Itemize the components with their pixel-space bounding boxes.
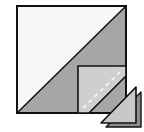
diagram-svg: [0, 0, 144, 132]
quilt-diagram: [0, 0, 144, 132]
